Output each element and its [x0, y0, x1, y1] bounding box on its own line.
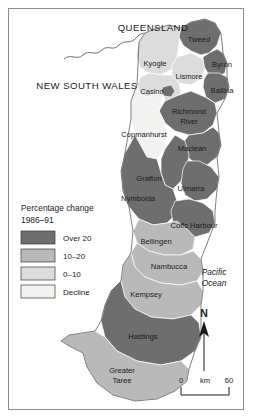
region-ulmarra[interactable] [181, 161, 219, 201]
label-copmanhurst: Copmanhurst [121, 130, 167, 139]
label-ballina: Ballina [211, 86, 235, 95]
legend-swatch-over20 [21, 231, 55, 244]
map-canvas: QUEENSLAND NEW SOUTH WALES Tweed Byron B… [9, 9, 243, 409]
legend-swatch-0-10 [21, 267, 55, 280]
label-greater-taree-2: Taree [113, 376, 132, 385]
label-byron: Byron [212, 60, 232, 69]
compass-north-label: N [200, 307, 208, 319]
label-maclean: Maclean [178, 144, 207, 153]
label-casino: Casino [140, 87, 164, 96]
label-bellingen: Bellingen [140, 237, 171, 246]
label-queensland: QUEENSLAND [118, 22, 189, 33]
label-coffs-harbour: Coffs Harbour [170, 221, 218, 230]
legend-label-0-10: 0–10 [63, 270, 81, 279]
scale-min-label: 0 [179, 376, 183, 385]
scale-unit-label: km [200, 376, 210, 385]
legend-label-decline: Decline [63, 288, 90, 297]
label-grafton: Grafton [136, 174, 161, 183]
label-nambucca: Nambucca [151, 262, 188, 271]
legend-label-over20: Over 20 [63, 234, 92, 243]
legend-title-line1: Percentage change [21, 203, 94, 213]
legend: Percentage change 1986–91 Over 20 10–20 … [21, 203, 94, 298]
legend-label-10-20: 10–20 [63, 252, 86, 261]
label-richmond-river: Richmond [172, 107, 206, 116]
legend-swatch-10-20 [21, 249, 55, 262]
label-nymboida: Nymboida [121, 194, 156, 203]
label-kempsey: Kempsey [130, 290, 162, 299]
label-ulmarra: Ulmarra [177, 184, 205, 193]
label-lismore: Lismore [175, 72, 202, 81]
label-richmond-river-2: River [180, 117, 198, 126]
legend-title-line2: 1986–91 [21, 215, 54, 225]
scale-bracket-icon [181, 387, 229, 395]
label-new-south-wales: NEW SOUTH WALES [36, 80, 137, 91]
label-greater-taree: Greater [109, 366, 135, 375]
map-frame: QUEENSLAND NEW SOUTH WALES Tweed Byron B… [8, 8, 244, 410]
scale-max-label: 60 [225, 376, 233, 385]
legend-swatch-decline [21, 285, 55, 298]
label-pacific-ocean-line1: Pacific [202, 267, 227, 277]
label-kyogle: Kyogle [143, 59, 166, 68]
label-hastings: Hastings [128, 332, 158, 341]
label-tweed: Tweed [188, 35, 210, 44]
label-pacific-ocean-line2: Ocean [202, 278, 227, 288]
